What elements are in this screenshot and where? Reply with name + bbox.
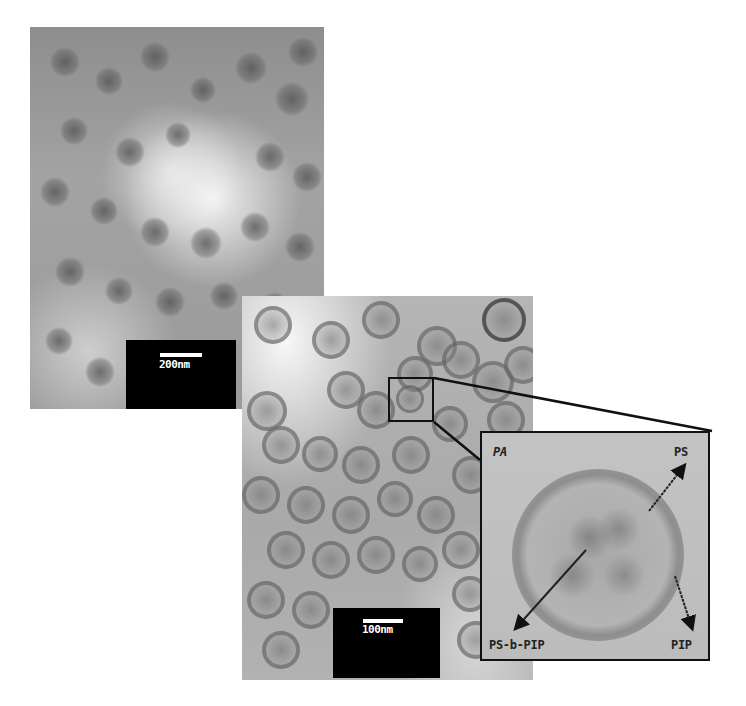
particle [357, 536, 395, 574]
particle [105, 277, 133, 305]
scale-bar-box: 200nm [126, 340, 236, 409]
particle [417, 496, 455, 534]
particle [312, 541, 350, 579]
particle [292, 162, 322, 192]
particle [312, 321, 350, 359]
arrow-pip [675, 576, 692, 628]
particle [342, 446, 380, 484]
magnified-region-selector [388, 377, 434, 422]
arrow-ps [649, 466, 684, 511]
particle [267, 531, 305, 569]
particle [115, 137, 145, 167]
scale-bar-label: 100nm [362, 623, 393, 636]
particle [240, 212, 270, 242]
arrow-ps-b-pip [516, 550, 586, 628]
particle [287, 486, 325, 524]
particle [302, 436, 338, 472]
particle [362, 301, 400, 339]
particle [262, 426, 300, 464]
particle [402, 546, 438, 582]
label-pip: PIP [671, 638, 692, 652]
particle [247, 581, 285, 619]
scale-bar-label: 200nm [159, 358, 190, 371]
particle [140, 42, 170, 72]
particle [90, 197, 118, 225]
particle [332, 496, 370, 534]
particle [242, 476, 280, 514]
particle [165, 122, 191, 148]
label-ps-b-pip: PS-b-PIP [489, 638, 544, 652]
particle [275, 82, 309, 116]
particle [95, 67, 123, 95]
particle [292, 591, 330, 629]
particle [50, 47, 80, 77]
particle [85, 357, 115, 387]
particle [190, 77, 216, 103]
annotation-arrows [482, 433, 710, 661]
inset-corner-label: PA [493, 445, 507, 459]
particle [482, 298, 526, 342]
particle [55, 257, 85, 287]
particle [235, 52, 267, 84]
particle [155, 287, 185, 317]
particle [255, 142, 285, 172]
particle [285, 232, 315, 262]
particle [40, 177, 70, 207]
particle [288, 37, 318, 67]
scale-bar [160, 353, 202, 357]
particle [140, 217, 170, 247]
particle [247, 391, 287, 431]
particle [392, 436, 430, 474]
particle [377, 481, 413, 517]
scale-bar-box: 100nm [333, 608, 440, 678]
label-ps: PS [674, 445, 688, 459]
particle [254, 306, 292, 344]
particle [45, 327, 73, 355]
particle [432, 406, 468, 442]
particle [442, 531, 480, 569]
particle [60, 117, 88, 145]
particle [210, 282, 238, 310]
particle [262, 631, 300, 669]
selected-particle [396, 385, 424, 413]
magnified-inset: PA PS PS-b-PIP PIP [480, 431, 710, 661]
particle [190, 227, 222, 259]
